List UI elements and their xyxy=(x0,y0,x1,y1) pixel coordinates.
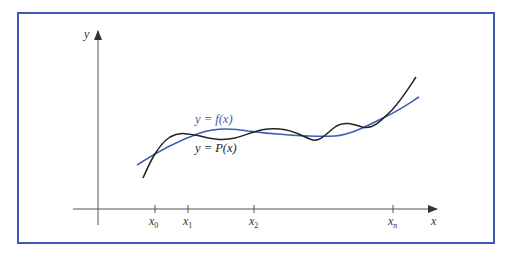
tick-label-x0: x0 xyxy=(148,214,158,230)
tick-label-xn: xn xyxy=(387,214,397,230)
curve-P xyxy=(143,77,416,178)
plot-canvas: x0 x1 x2 xn x y y = f(x) y = P(x) xyxy=(0,0,509,259)
tick-label-x2: x2 xyxy=(248,214,258,230)
interpolation-figure: x0 x1 x2 xn x y y = f(x) y = P(x) xyxy=(0,0,509,259)
curve-f xyxy=(137,97,419,165)
tick-label-x1: x1 xyxy=(182,214,192,230)
curve-f-label: y = f(x) xyxy=(193,112,233,126)
curve-P-label: y = P(x) xyxy=(193,141,237,155)
x-axis-label: x xyxy=(430,214,437,228)
y-axis-label: y xyxy=(83,27,90,41)
